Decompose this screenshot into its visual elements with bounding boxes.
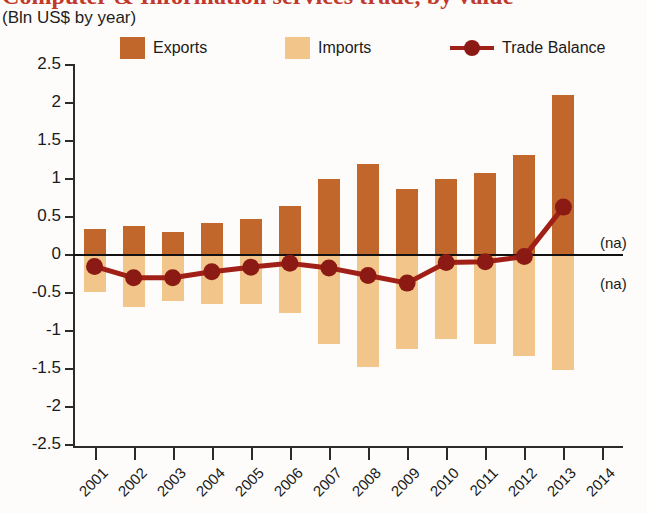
trade-balance-line <box>0 0 647 513</box>
trade-balance-point <box>86 258 103 275</box>
trade-balance-point <box>477 253 494 270</box>
x-axis-tick <box>329 448 331 460</box>
na-label-above: (na) <box>600 234 627 251</box>
x-axis-tick <box>173 448 175 460</box>
trade-balance-point <box>399 275 416 292</box>
x-axis-tick <box>485 448 487 460</box>
x-axis-tick <box>524 448 526 460</box>
x-axis-tick <box>134 448 136 460</box>
trade-balance-point <box>516 248 533 265</box>
chart-plot-area: 2.521.510.50-0.5-1-1.5-2-2.5 20012002200… <box>0 0 647 513</box>
x-axis-tick <box>602 448 604 460</box>
x-axis-tick <box>368 448 370 460</box>
x-axis-tick <box>251 448 253 460</box>
x-axis-tick <box>95 448 97 460</box>
na-label-below: (na) <box>600 275 627 292</box>
trade-balance-point <box>555 199 572 216</box>
x-axis-tick <box>563 448 565 460</box>
x-axis-tick <box>290 448 292 460</box>
trade-balance-point <box>438 254 455 271</box>
trade-balance-point <box>203 263 220 280</box>
trade-balance-point <box>164 269 181 286</box>
x-axis-tick <box>446 448 448 460</box>
x-axis-tick <box>212 448 214 460</box>
trade-balance-point <box>281 255 298 272</box>
trade-balance-point <box>125 269 142 286</box>
trade-balance-point <box>320 259 337 276</box>
x-axis-tick <box>407 448 409 460</box>
trade-balance-point <box>360 267 377 284</box>
trade-balance-point <box>242 259 259 276</box>
